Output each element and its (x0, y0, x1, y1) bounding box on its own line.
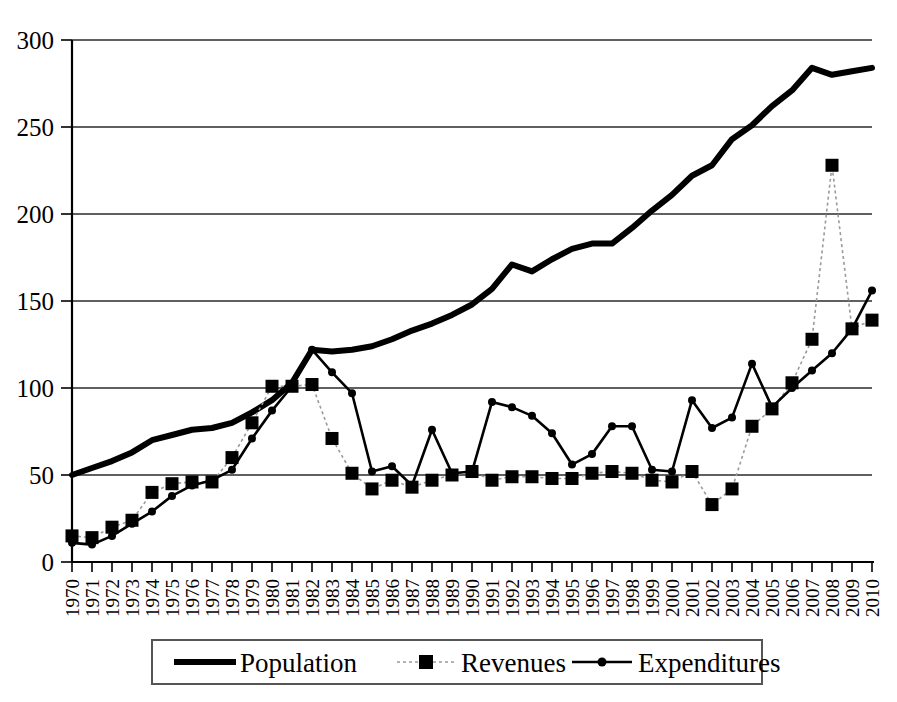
x-tick-label: 1994 (542, 579, 563, 618)
expenditures-marker (408, 481, 416, 489)
revenues-marker (266, 380, 279, 393)
expenditures-marker (288, 382, 296, 390)
x-tick-label: 1984 (342, 579, 363, 618)
expenditures-marker (848, 325, 856, 333)
x-tick-label: 1985 (362, 579, 383, 617)
y-tick-label: 200 (17, 201, 55, 228)
expenditures-marker (528, 412, 536, 420)
revenues-marker (526, 470, 539, 483)
gridlines (72, 40, 872, 475)
x-tick-label: 1982 (302, 579, 323, 617)
revenues-marker (426, 474, 439, 487)
chart-container: 050100150200250300 197019711972197319741… (0, 0, 897, 702)
x-tick-label: 1990 (462, 579, 483, 617)
x-tick-label: 1989 (442, 579, 463, 617)
expenditures-marker (188, 481, 196, 489)
expenditures-marker (868, 287, 876, 295)
revenues-marker (506, 470, 519, 483)
expenditures-marker (688, 396, 696, 404)
x-tick-label: 1998 (622, 579, 643, 617)
x-tick-label: 1976 (182, 579, 203, 617)
x-axis-tick-labels: 1970197119721973197419751976197719781979… (62, 579, 883, 618)
expenditures-marker (508, 403, 516, 411)
expenditures-marker (388, 462, 396, 470)
revenues-marker (246, 416, 259, 429)
expenditures-marker (468, 468, 476, 476)
expenditures-marker (428, 426, 436, 434)
revenues-marker (346, 467, 359, 480)
expenditures-marker (568, 461, 576, 469)
x-tick-label: 1986 (382, 579, 403, 617)
revenues-marker (306, 378, 319, 391)
x-tick-label: 2001 (682, 579, 703, 617)
x-tick-label: 1978 (222, 579, 243, 617)
expenditures-marker (268, 407, 276, 415)
x-tick-label: 1979 (242, 579, 263, 617)
x-tick-label: 1973 (122, 579, 143, 617)
legend-marker-revenues (419, 655, 433, 669)
x-tick-label: 1971 (82, 579, 103, 617)
revenues-marker (646, 474, 659, 487)
x-tick-label: 1999 (642, 579, 663, 617)
expenditures-marker (208, 476, 216, 484)
x-tick-label: 1974 (142, 579, 163, 618)
chart-svg: 050100150200250300 197019711972197319741… (0, 0, 897, 702)
revenues-marker (146, 486, 159, 499)
x-tick-label: 1988 (422, 579, 443, 617)
revenues-marker (606, 465, 619, 478)
revenues-marker (566, 472, 579, 485)
y-tick-label: 50 (29, 462, 54, 489)
x-tick-label: 1997 (602, 579, 623, 617)
revenues-marker (166, 477, 179, 490)
y-tick-label: 0 (42, 549, 55, 576)
expenditures-marker (668, 468, 676, 476)
legend-marker-expenditures (598, 658, 607, 667)
y-tick-label: 100 (17, 375, 55, 402)
expenditures-marker (628, 422, 636, 430)
revenues-marker (806, 333, 819, 346)
x-tick-label: 1983 (322, 579, 343, 617)
y-axis-tickmarks (61, 40, 72, 562)
x-tick-label: 1992 (502, 579, 523, 617)
x-tick-label: 2003 (722, 579, 743, 617)
expenditures-marker (128, 520, 136, 528)
series-expenditures (68, 287, 876, 549)
expenditures-marker (708, 424, 716, 432)
expenditures-marker (728, 414, 736, 422)
y-tick-label: 250 (17, 114, 55, 141)
revenues-marker (326, 432, 339, 445)
expenditures-marker (828, 349, 836, 357)
expenditures-line (72, 291, 872, 545)
series-population (72, 68, 872, 475)
x-tick-label: 1972 (102, 579, 123, 617)
expenditures-marker (748, 360, 756, 368)
x-tick-label: 1995 (562, 579, 583, 617)
revenues-marker (386, 474, 399, 487)
revenues-marker (626, 467, 639, 480)
series-revenues (66, 159, 879, 544)
expenditures-marker (88, 541, 96, 549)
revenues-marker (586, 467, 599, 480)
expenditures-marker (148, 508, 156, 516)
x-tick-label: 1970 (62, 579, 83, 617)
expenditures-marker (788, 384, 796, 392)
x-tick-label: 1977 (202, 579, 223, 617)
x-tick-label: 2007 (802, 579, 823, 617)
legend-label-expenditures: Expenditures (638, 648, 780, 678)
expenditures-marker (548, 429, 556, 437)
y-tick-label: 300 (17, 27, 55, 54)
expenditures-marker (808, 367, 816, 375)
revenues-marker (666, 475, 679, 488)
revenues-marker (826, 159, 839, 172)
x-tick-label: 2005 (762, 579, 783, 617)
x-tick-label: 1981 (282, 579, 303, 617)
x-tick-label: 2006 (782, 579, 803, 617)
expenditures-marker (108, 532, 116, 540)
revenues-marker (546, 472, 559, 485)
expenditures-marker (768, 403, 776, 411)
x-tick-label: 2009 (842, 579, 863, 617)
y-tick-label: 150 (17, 288, 55, 315)
expenditures-marker (608, 422, 616, 430)
x-tick-label: 2000 (662, 579, 683, 617)
expenditures-marker (448, 469, 456, 477)
